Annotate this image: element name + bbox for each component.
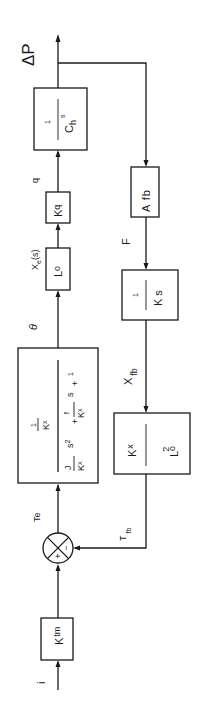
kq-block: Kq	[46, 192, 70, 223]
arrowhead-icon	[144, 263, 149, 270]
force-label: F	[120, 238, 132, 245]
svg-text:1: 1	[30, 423, 37, 427]
theta-label: θ	[27, 324, 39, 330]
arrowhead-icon	[56, 150, 61, 157]
arrowhead-icon	[56, 223, 61, 230]
block-diagram: Ktm + − 1 Kx J Kx s2 + f Kx s + 1 Lo Kq	[0, 0, 197, 712]
tfb-line	[75, 474, 146, 548]
svg-text:f: f	[63, 412, 70, 414]
torque-motor-block: 1 Kx J Kx s2 + f Kx s + 1	[18, 348, 98, 483]
kx-lo2-block: Kx Lo2	[114, 413, 190, 474]
ktm-block: Ktm	[41, 618, 73, 660]
arrowhead-icon	[144, 160, 149, 167]
svg-text:1: 1	[44, 120, 51, 124]
svg-text:+: +	[70, 419, 80, 424]
arrowhead-icon	[56, 484, 61, 491]
arrowhead-icon	[56, 290, 61, 297]
svg-text:+: +	[70, 381, 80, 386]
ks-block: 1 Ks	[122, 270, 178, 320]
output-arrowhead-icon	[56, 34, 61, 42]
summing-junction: + −	[43, 533, 73, 563]
afb-block: A fb	[131, 167, 159, 217]
svg-text:s: s	[65, 392, 75, 397]
plus-sign: +	[53, 553, 63, 558]
xe-label: Xe(s)	[30, 250, 42, 270]
arrowhead-icon	[144, 406, 149, 413]
lo-block: Lo	[46, 248, 70, 290]
afb-label: A fb	[140, 189, 152, 212]
q-label: q	[30, 178, 40, 183]
te-label: Te	[32, 512, 42, 522]
arrowhead-icon	[56, 564, 61, 571]
delta-p-label: ΔP	[19, 43, 38, 66]
svg-text:J: J	[63, 466, 73, 471]
arrowhead-icon	[56, 660, 61, 667]
svg-text:1: 1	[132, 293, 139, 297]
xfb-label: Xfb	[122, 368, 139, 385]
minus-sign: −	[61, 545, 71, 550]
arrowhead-icon	[73, 546, 80, 551]
ch-block: 1 Chs	[34, 88, 87, 150]
svg-text:1: 1	[67, 372, 74, 376]
tfb-label: Tfb	[118, 528, 132, 541]
input-label: i	[35, 682, 47, 684]
